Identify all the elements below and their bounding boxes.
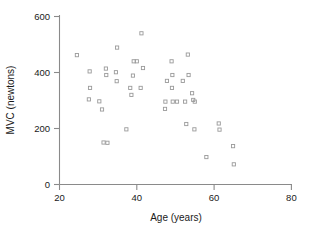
data-point — [106, 141, 109, 144]
y-axis-title: MVC (newtons) — [5, 66, 16, 135]
x-tick-label-20: 20 — [54, 192, 65, 203]
data-point — [205, 155, 208, 158]
data-point — [187, 73, 190, 76]
data-point — [104, 67, 107, 70]
data-point — [165, 79, 168, 82]
x-axis-ticks — [60, 185, 292, 191]
x-tick-label-60: 60 — [209, 192, 220, 203]
data-point — [170, 60, 173, 63]
data-point — [175, 100, 178, 103]
data-point — [102, 141, 105, 144]
y-tick-label-200: 200 — [34, 123, 50, 134]
data-point — [115, 80, 118, 83]
data-point — [218, 128, 221, 131]
data-point — [185, 122, 188, 125]
data-point — [100, 108, 103, 111]
data-point — [139, 86, 142, 89]
scatter-plot-figure: 0 200 400 600 20 40 60 80 Age (years) MV… — [0, 0, 316, 230]
data-point — [217, 122, 220, 125]
y-tick-label-600: 600 — [34, 11, 50, 22]
x-tick-label-80: 80 — [286, 192, 297, 203]
data-point — [231, 145, 234, 148]
y-tick-label-0: 0 — [45, 179, 50, 190]
data-point — [170, 86, 173, 89]
data-point — [163, 107, 166, 110]
y-axis-ticks — [54, 17, 60, 185]
x-tick-label-40: 40 — [132, 192, 143, 203]
data-point — [98, 100, 101, 103]
data-point — [181, 79, 184, 82]
data-point — [115, 46, 118, 49]
data-point — [186, 53, 189, 56]
data-point — [105, 73, 108, 76]
data-point — [193, 128, 196, 131]
data-point — [88, 86, 91, 89]
x-axis-title: Age (years) — [150, 212, 202, 223]
data-point — [232, 163, 235, 166]
data-point — [125, 128, 128, 131]
data-point — [171, 100, 174, 103]
data-point — [141, 66, 144, 69]
data-point — [190, 92, 193, 95]
data-point — [75, 54, 78, 57]
data-point — [184, 100, 187, 103]
data-point — [114, 71, 117, 74]
plot-canvas: 0 200 400 600 20 40 60 80 Age (years) MV… — [0, 0, 316, 230]
data-point — [130, 93, 133, 96]
y-tick-label-400: 400 — [34, 67, 50, 78]
data-point — [87, 98, 90, 101]
data-point — [88, 70, 91, 73]
data-point — [164, 100, 167, 103]
data-point — [131, 74, 134, 77]
data-point — [140, 32, 143, 35]
data-point — [171, 73, 174, 76]
data-points-layer — [75, 32, 235, 166]
data-point — [129, 86, 132, 89]
